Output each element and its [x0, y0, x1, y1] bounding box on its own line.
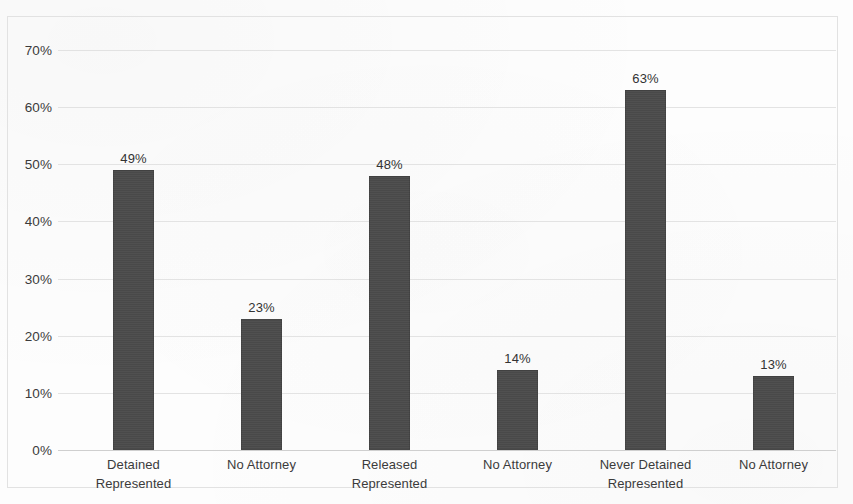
y-axis-tick-label: 20%: [8, 328, 52, 343]
x-label-line-1: No Attorney: [227, 457, 296, 472]
bar-value-label: 14%: [504, 351, 530, 366]
bar: [241, 319, 282, 450]
x-label-line-2: Represented: [571, 474, 721, 493]
y-axis-tick-label: 10%: [8, 385, 52, 400]
bar: [753, 376, 794, 450]
gridline-20: [58, 336, 836, 337]
bar-group: 23%: [241, 50, 282, 450]
chart-frame: 70%60%50%40%30%20%10%0% 49%23%48%14%63%1…: [7, 16, 838, 488]
bar-value-label: 13%: [760, 357, 786, 372]
gridline-40: [58, 221, 836, 222]
bar: [369, 176, 410, 450]
x-label-line-1: No Attorney: [483, 457, 552, 472]
bar-value-label: 48%: [376, 157, 402, 172]
bar: [625, 90, 666, 450]
gridline-30: [58, 279, 836, 280]
x-label-line-1: No Attorney: [739, 457, 808, 472]
y-axis-tick-label: 30%: [8, 271, 52, 286]
x-label-line-2: Represented: [59, 474, 209, 493]
gridline-0: [58, 450, 836, 451]
y-axis-tick-label: 50%: [8, 157, 52, 172]
bar-group: 14%: [497, 50, 538, 450]
bar: [113, 170, 154, 450]
y-axis-tick-labels: 70%60%50%40%30%20%10%0%: [8, 50, 52, 450]
bar: [497, 370, 538, 450]
bar-value-label: 23%: [248, 300, 274, 315]
bar-group: 49%: [113, 50, 154, 450]
gridline-10: [58, 393, 836, 394]
gridline-60: [58, 107, 836, 108]
y-axis-tick-label: 0%: [8, 443, 52, 458]
gridline-70: [58, 50, 836, 51]
bar-group: 48%: [369, 50, 410, 450]
y-axis-tick-label: 40%: [8, 214, 52, 229]
x-label-line-1: Released: [362, 457, 418, 472]
bar-value-label: 49%: [120, 151, 146, 166]
y-axis-tick-label: 60%: [8, 100, 52, 115]
x-label-line-1: Never Detained: [600, 457, 692, 472]
bar-group: 13%: [753, 50, 794, 450]
bar-value-label: 63%: [632, 71, 658, 86]
x-axis-category-label: No Attorney: [699, 455, 849, 474]
plot-area: 49%23%48%14%63%13%: [58, 50, 836, 450]
gridline-50: [58, 164, 836, 165]
bar-group: 63%: [625, 50, 666, 450]
x-label-line-2: Represented: [315, 474, 465, 493]
y-axis-tick-label: 70%: [8, 43, 52, 58]
x-axis-category-labels: DetainedRepresentedNo AttorneyReleasedRe…: [58, 455, 836, 504]
x-label-line-1: Detained: [107, 457, 160, 472]
